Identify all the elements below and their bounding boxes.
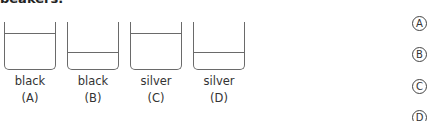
beaker-c-letter-label: (C) [126,91,186,105]
water-line-high [131,33,181,34]
beaker-d-color-label: silver [189,74,249,88]
beaker-d-diagram [193,22,245,70]
beaker-c-color-label: silver [126,74,186,88]
beaker-a-letter-label: (A) [0,91,60,105]
beaker-a-diagram [4,22,56,70]
beaker-a-color-label: black [0,74,60,88]
beaker-d-letter-label: (D) [189,91,249,105]
answer-option-c[interactable]: C [412,79,427,94]
water-line-low [194,52,244,53]
beaker-b-letter-label: (B) [63,91,123,105]
water-line-low [68,52,118,53]
question-text-cutoff: beakers. [0,0,63,6]
beaker-c-diagram [130,22,182,70]
beaker-b-diagram [67,22,119,70]
answer-option-b[interactable]: B [412,47,427,62]
beaker-b-color-label: black [63,74,123,88]
answer-option-a[interactable]: A [412,16,427,31]
answer-option-d[interactable]: D [412,110,427,121]
water-line-high [5,33,55,34]
